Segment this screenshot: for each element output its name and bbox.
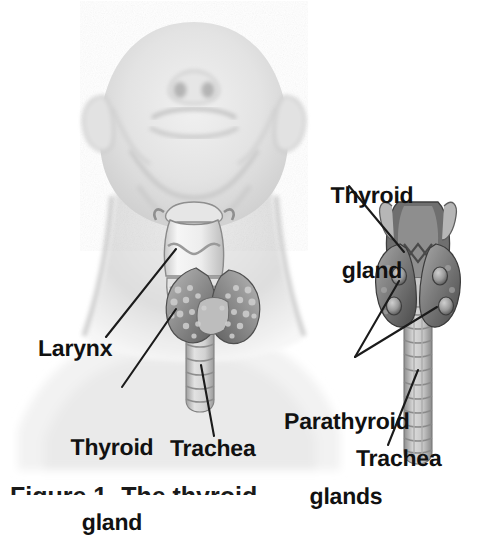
head-inferior-view bbox=[100, 22, 289, 230]
label-larynx: Larynx bbox=[38, 336, 112, 361]
label-thyroid-gland-right-line1: Thyroid bbox=[312, 183, 432, 208]
label-thyroid-gland-left-line2: gland bbox=[52, 510, 172, 535]
parathyroid-superior-right bbox=[433, 267, 448, 285]
label-trachea-right: Trachea bbox=[356, 446, 442, 471]
parathyroid-inferior-right bbox=[439, 297, 454, 315]
label-parathyroid-glands-line1: Parathyroid bbox=[284, 409, 408, 434]
label-thyroid-gland-right-line2: gland bbox=[312, 258, 432, 283]
label-trachea-left: Trachea bbox=[170, 436, 256, 461]
label-thyroid-gland-right: Thyroid gland bbox=[312, 133, 432, 333]
figure-caption: Figure 1. The thyroid bbox=[0, 486, 484, 495]
label-thyroid-gland-left: Thyroid gland bbox=[52, 385, 172, 539]
figure-caption-text: Figure 1. The thyroid bbox=[10, 486, 257, 495]
label-thyroid-gland-left-line1: Thyroid bbox=[52, 435, 172, 460]
